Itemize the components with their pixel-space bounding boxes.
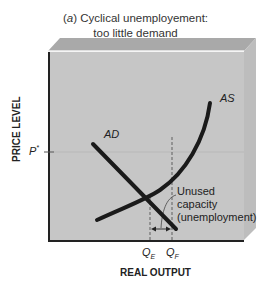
note-line3: (unemployment) — [177, 211, 256, 224]
qf-sub: F — [175, 253, 179, 260]
chart-plot — [0, 0, 271, 287]
qe-label: QE — [142, 246, 155, 260]
unused-capacity-note: Unused capacity (unemployment) — [177, 185, 256, 224]
qf-text: Q — [166, 246, 175, 258]
qf-label: QF — [166, 246, 179, 260]
panel-top-bevel — [48, 38, 256, 51]
as-label: AS — [220, 92, 235, 104]
note-line2: capacity — [177, 198, 256, 211]
qe-sub: E — [151, 253, 156, 260]
p-star-label: P* — [29, 144, 39, 157]
qe-text: Q — [142, 246, 151, 258]
y-axis-label: PRICE LEVEL — [11, 96, 22, 162]
note-line1: Unused — [177, 185, 256, 198]
p-star-sup: * — [36, 144, 39, 151]
ad-label: AD — [104, 128, 119, 140]
x-axis-label: REAL OUTPUT — [0, 267, 271, 278]
